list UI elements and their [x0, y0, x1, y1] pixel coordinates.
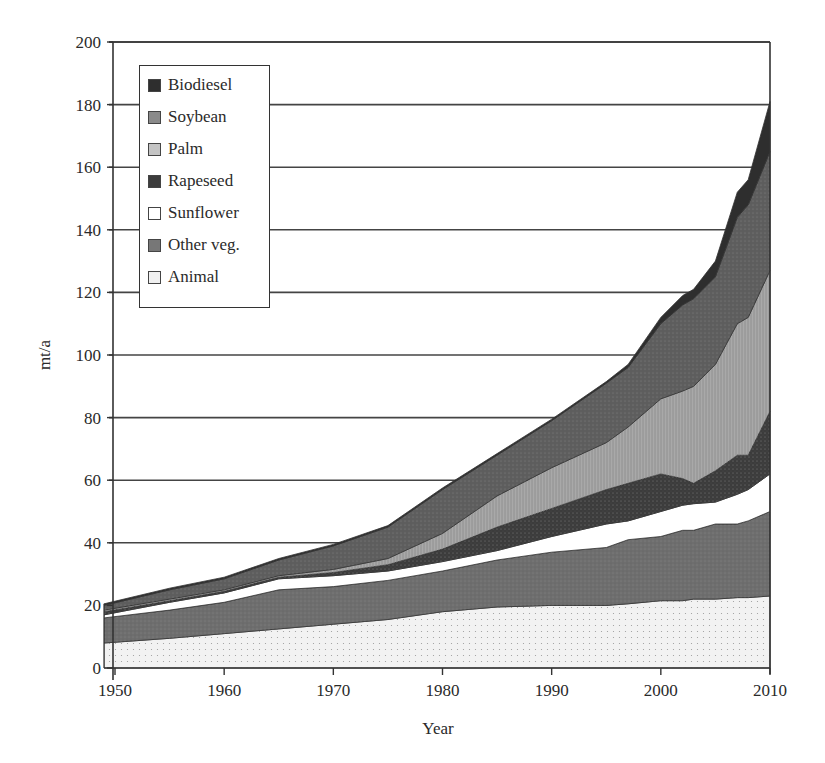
- other-veg-swatch-icon: [148, 239, 161, 252]
- stacked-area-chart: 0204060801001201401601802001950196019701…: [0, 0, 825, 763]
- y-tick-label: 100: [76, 346, 102, 365]
- sunflower-swatch-icon: [148, 207, 161, 220]
- x-tick-label: 2010: [753, 681, 787, 700]
- x-tick-label: 1990: [535, 681, 569, 700]
- y-axis-title: mt/a: [35, 339, 54, 370]
- y-tick-label: 180: [76, 96, 102, 115]
- legend-label: Palm: [168, 139, 203, 159]
- y-tick-label: 200: [76, 33, 102, 52]
- legend-label: Rapeseed: [168, 171, 233, 191]
- x-axis-title: Year: [422, 719, 454, 738]
- legend-label: Soybean: [168, 107, 227, 127]
- x-tick-label: 1960: [207, 681, 241, 700]
- legend-item-soybean: Soybean: [148, 106, 227, 128]
- y-tick-label: 0: [93, 659, 102, 678]
- biodiesel-swatch-icon: [148, 79, 161, 92]
- legend-label: Biodiesel: [168, 75, 232, 95]
- y-tick-label: 60: [84, 471, 101, 490]
- x-tick-label: 2000: [644, 681, 678, 700]
- rapeseed-swatch-icon: [148, 175, 161, 188]
- legend-label: Animal: [168, 267, 219, 287]
- legend-item-animal: Animal: [148, 266, 219, 288]
- legend-label: Sunflower: [168, 203, 239, 223]
- palm-swatch-icon: [148, 143, 161, 156]
- legend-item-sunflower: Sunflower: [148, 202, 239, 224]
- animal-swatch-icon: [148, 271, 161, 284]
- y-tick-label: 140: [76, 221, 102, 240]
- y-tick-label: 20: [84, 596, 101, 615]
- x-tick-label: 1950: [98, 681, 132, 700]
- legend-item-palm: Palm: [148, 138, 203, 160]
- y-tick-label: 160: [76, 158, 102, 177]
- legend-item-other-veg: Other veg.: [148, 234, 240, 256]
- chart-legend: Biodiesel Soybean Palm Rapeseed Sunflowe…: [139, 65, 270, 308]
- legend-label: Other veg.: [168, 235, 240, 255]
- x-tick-label: 1970: [316, 681, 350, 700]
- y-tick-label: 120: [76, 283, 102, 302]
- legend-item-rapeseed: Rapeseed: [148, 170, 233, 192]
- soybean-swatch-icon: [148, 111, 161, 124]
- x-tick-label: 1980: [426, 681, 460, 700]
- y-tick-label: 40: [84, 534, 101, 553]
- y-tick-label: 80: [84, 409, 101, 428]
- legend-item-biodiesel: Biodiesel: [148, 74, 232, 96]
